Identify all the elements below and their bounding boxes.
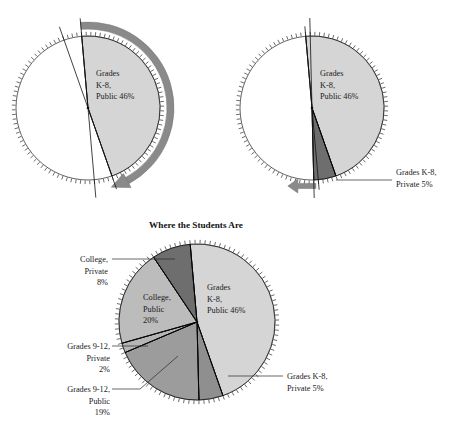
callout-label-line: 19% bbox=[95, 408, 110, 417]
callout-label-line: 2% bbox=[99, 365, 110, 374]
slice-label-line: Public 46% bbox=[320, 92, 359, 101]
callout-label-line: Grades K-8, bbox=[396, 168, 437, 177]
callout-label-line: Private 5% bbox=[287, 384, 324, 393]
pie-center-dot bbox=[196, 321, 199, 324]
callout-label-line: Grades 9-12, bbox=[67, 385, 110, 394]
slice-label-line: K-8, bbox=[96, 81, 111, 90]
slice-label-line: K-8, bbox=[207, 295, 222, 304]
callout-label-line: Private bbox=[86, 354, 110, 363]
callout-label-line: Public bbox=[89, 397, 111, 406]
chart-title: Where the Students Are bbox=[149, 220, 243, 230]
slice-label-line: Public 46% bbox=[96, 92, 135, 101]
slice-label-line: Grades bbox=[207, 283, 231, 292]
callout-label-line: Grades K-8, bbox=[287, 372, 328, 381]
slice-label-line: Public 46% bbox=[207, 306, 246, 315]
callout-label-line: 8% bbox=[97, 278, 108, 287]
slice-label-line: K-8, bbox=[320, 81, 335, 90]
slice-label-line: 20% bbox=[143, 316, 158, 325]
callout-label-line: Grades 9-12, bbox=[67, 342, 110, 351]
callout-label-line: College, bbox=[80, 255, 108, 264]
callout-label-line: Private bbox=[84, 267, 108, 276]
slice-label-line: Grades bbox=[320, 69, 344, 78]
slice-label-line: Grades bbox=[96, 69, 120, 78]
slice-label-line: Public bbox=[143, 305, 165, 314]
pie-chart-figure: GradesK-8,Public 46%GradesK-8,Public 46%… bbox=[0, 0, 457, 432]
slice-label-line: College, bbox=[143, 293, 171, 302]
callout-label-line: Private 5% bbox=[396, 180, 433, 189]
